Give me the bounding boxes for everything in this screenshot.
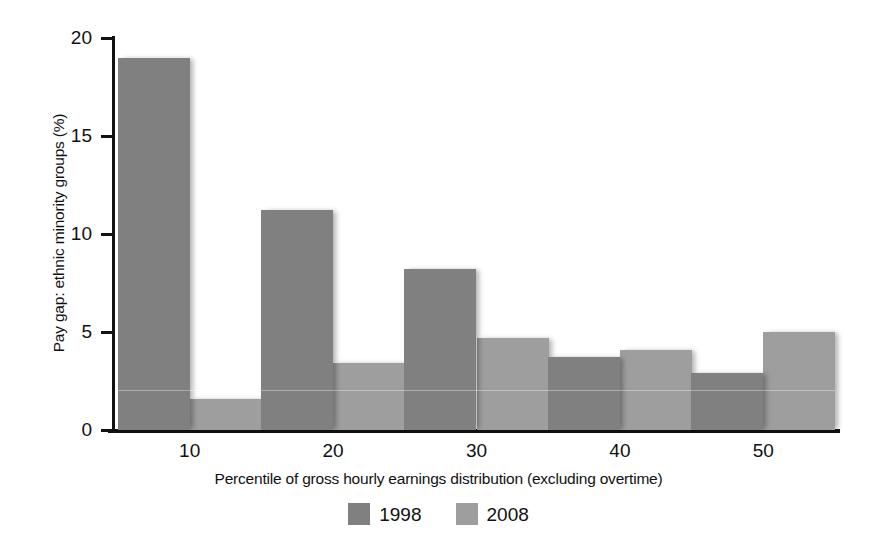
legend-swatch-icon — [456, 503, 478, 525]
y-axis-tick-label: 0 — [46, 420, 92, 439]
bar-2008-20 — [333, 363, 405, 430]
y-axis-tick-label: 15 — [46, 126, 92, 145]
x-axis-tick-label: 20 — [293, 441, 373, 460]
y-axis-tick — [101, 331, 113, 334]
legend-item-2008[interactable]: 2008 — [456, 503, 529, 525]
bar-chart: Pay gap: ethnic minority groups (%) 0510… — [0, 0, 877, 553]
legend-label: 1998 — [379, 505, 421, 524]
legend-item-1998[interactable]: 1998 — [348, 503, 421, 525]
legend-label: 2008 — [487, 505, 529, 524]
plot-area — [118, 38, 835, 430]
chart-legend: 19982008 — [0, 503, 877, 525]
x-axis-tick-label: 50 — [723, 441, 803, 460]
x-axis-title: Percentile of gross hourly earnings dist… — [0, 470, 877, 488]
y-axis-tick — [101, 37, 113, 40]
bar-1998-30 — [404, 269, 476, 430]
bar-1998-10 — [118, 58, 190, 430]
y-axis-tick — [101, 233, 113, 236]
bar-2008-10 — [190, 399, 262, 430]
y-axis-tick — [101, 135, 113, 138]
bar-1998-50 — [691, 373, 763, 430]
y-axis-tick-label: 20 — [46, 28, 92, 47]
x-axis-tick-label: 40 — [580, 441, 660, 460]
bar-2008-30 — [477, 338, 549, 430]
scan-artifact-line — [118, 390, 835, 391]
bar-1998-40 — [548, 357, 620, 430]
legend-swatch-icon — [348, 503, 370, 525]
bar-1998-20 — [261, 210, 333, 430]
x-axis-tick-label: 30 — [437, 441, 517, 460]
bar-2008-50 — [763, 332, 835, 430]
y-axis-tick-label: 5 — [46, 322, 92, 341]
y-axis-tick-label: 10 — [46, 224, 92, 243]
x-axis-tick-label: 10 — [150, 441, 230, 460]
